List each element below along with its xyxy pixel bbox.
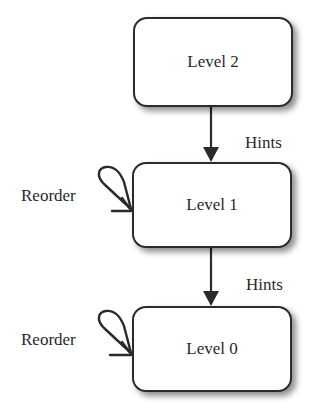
node-label: Level 2: [187, 52, 238, 72]
state-node-level-0: Level 0: [132, 306, 292, 392]
edge-label-reorder: Reorder: [21, 187, 76, 204]
hints-arrow-1-to-0: [203, 248, 219, 306]
node-label: Level 0: [186, 339, 237, 359]
edge-label-reorder: Reorder: [21, 331, 76, 348]
node-label: Level 1: [186, 195, 237, 215]
reorder-loop-level0: [99, 311, 131, 355]
state-node-level-1: Level 1: [132, 162, 292, 248]
reorder-loop-level1: [99, 167, 131, 211]
edge-label-hints: Hints: [245, 134, 282, 151]
hints-arrow-2-to-1: [203, 107, 219, 162]
edge-label-hints: Hints: [246, 276, 283, 293]
state-node-level-2: Level 2: [133, 17, 293, 107]
